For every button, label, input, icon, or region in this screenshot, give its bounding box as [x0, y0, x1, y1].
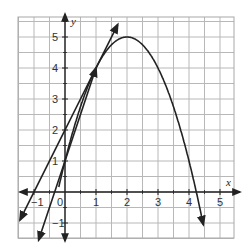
- y-axis-label: y: [70, 15, 76, 27]
- y-tick-label: 5: [52, 31, 58, 43]
- tangent-line: [20, 25, 118, 220]
- y-tick-label: 2: [52, 124, 58, 136]
- y-tick-label: −1: [52, 217, 65, 229]
- x-tick-label: 2: [124, 196, 130, 208]
- coordinate-plane: −1123450−112345xy: [0, 0, 250, 251]
- x-tick-label: −1: [31, 196, 44, 208]
- secant-line: [39, 68, 96, 240]
- origin-label: 0: [57, 196, 63, 208]
- x-tick-label: 5: [217, 196, 223, 208]
- y-tick-label: 3: [52, 93, 58, 105]
- x-tick-label: 4: [186, 196, 192, 208]
- x-tick-label: 3: [155, 196, 161, 208]
- x-tick-label: 1: [93, 196, 99, 208]
- y-tick-label: 4: [52, 62, 58, 74]
- x-axis-label: x: [225, 176, 231, 188]
- tick-labels: −1123450−112345xy: [31, 15, 231, 229]
- y-tick-label: 1: [52, 155, 58, 167]
